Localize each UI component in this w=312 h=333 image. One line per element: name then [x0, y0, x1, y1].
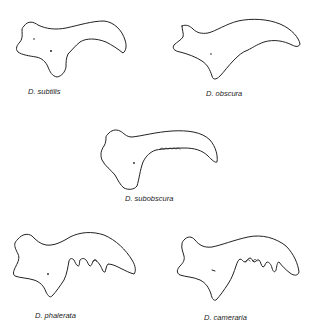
outline-phalerata: [13, 233, 135, 297]
species-label-cameraria: D. cameraria: [204, 314, 247, 322]
species-outline-figure: D. subtilis D. obscura D. subobscura D. …: [0, 0, 312, 333]
outline-obscura: [173, 19, 300, 79]
outline-cameraria: [177, 236, 299, 300]
outline-subtilis: [17, 21, 127, 77]
outline-subobscura: [101, 130, 217, 189]
species-label-subobscura: D. subobscura: [125, 195, 173, 203]
species-label-subtilis: D. subtilis: [28, 88, 61, 96]
species-label-phalerata: D. phalerata: [35, 312, 76, 320]
outline-drawings: [0, 0, 312, 333]
species-label-obscura: D. obscura: [206, 90, 242, 98]
